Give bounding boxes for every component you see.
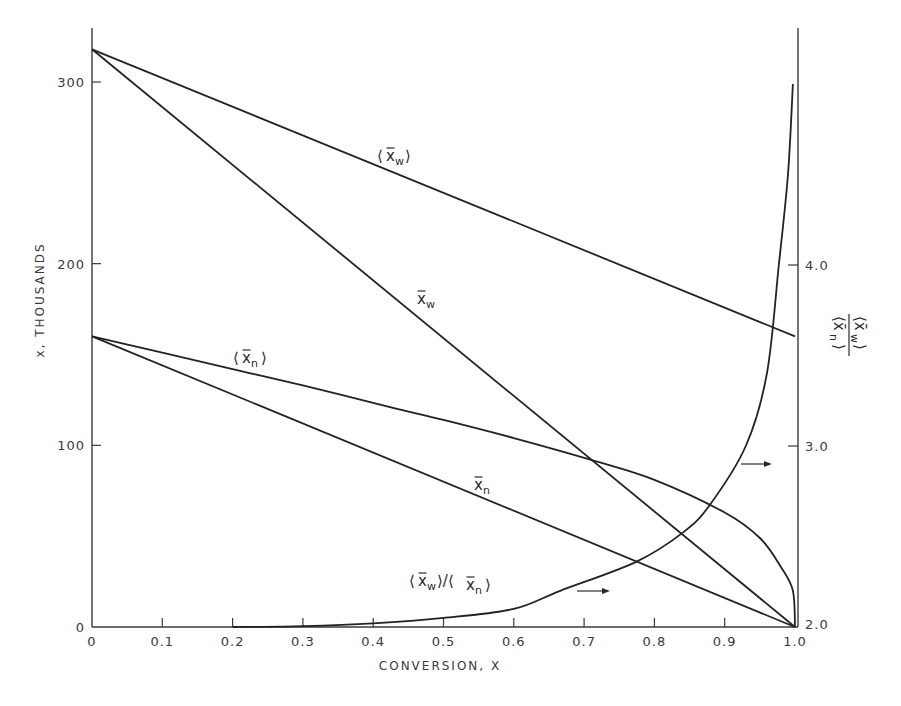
svg-text:x: x [418, 572, 427, 590]
x-tick-label: 0.9 [713, 634, 737, 649]
arrow-right-icon [577, 588, 610, 594]
y2-tick-label: 3.0 [805, 439, 829, 454]
svg-text:n: n [827, 334, 840, 341]
curves [92, 49, 795, 627]
svg-text:⟨: ⟨ [233, 349, 239, 367]
svg-text:x: x [386, 147, 395, 165]
x-tick-label: 0.5 [432, 634, 456, 649]
x-tick-label: 0.7 [572, 634, 596, 649]
svg-text:x: x [474, 476, 483, 494]
x-tick-label: 0.2 [221, 634, 245, 649]
y2-tick-label: 2.0 [805, 617, 829, 632]
x-tick-label: 0.4 [361, 634, 385, 649]
label-xn: xn [474, 476, 490, 497]
svg-text:⟩/⟨: ⟩/⟨ [437, 572, 454, 590]
curve-xw-average [92, 49, 795, 336]
x-tick-label: 0.3 [291, 634, 315, 649]
label-ratio: ⟨xw⟩/⟨xn⟩ [409, 572, 491, 597]
svg-text:n: n [483, 484, 490, 497]
svg-text:n: n [251, 357, 258, 370]
arrow-right-icon [741, 461, 772, 467]
svg-text:w: w [395, 155, 404, 168]
label-xn-average: ⟨xn⟩ [233, 349, 267, 370]
svg-text:x: x [242, 349, 251, 367]
svg-text:⟨x̄: ⟨x̄ [830, 316, 848, 331]
svg-text:n: n [475, 584, 482, 597]
y-tick-label: 300 [57, 75, 85, 90]
svg-text:w: w [848, 334, 861, 343]
svg-text:⟨: ⟨ [409, 572, 415, 590]
svg-text:⟩: ⟩ [830, 344, 848, 350]
x-tick-label: 0.6 [502, 634, 526, 649]
right-axis-label: ⟨x̄w⟩⟨x̄n⟩ [827, 314, 869, 356]
label-xw-average: ⟨xw⟩ [377, 147, 411, 168]
y-tick-label: 200 [57, 257, 85, 272]
svg-text:x: x [466, 576, 475, 594]
labels: CONVERSION, Xx, THOUSANDS⟨xw⟩xw⟨xn⟩xn⟨xw… [33, 147, 869, 673]
x-tick-label: 0 [87, 634, 96, 649]
y-tick-label: 0 [76, 620, 85, 635]
svg-text:x: x [417, 290, 426, 308]
svg-text:w: w [427, 580, 436, 593]
svg-text:⟨x̄: ⟨x̄ [851, 316, 869, 331]
svg-text:⟩: ⟩ [261, 349, 267, 367]
svg-text:⟨: ⟨ [377, 147, 383, 165]
chart-canvas: 00.10.20.30.40.50.60.70.80.91.0010020030… [0, 0, 901, 706]
curve-ratio [233, 84, 793, 627]
y-tick-label: 100 [57, 438, 85, 453]
x-tick-label: 0.8 [643, 634, 667, 649]
x-tick-label: 0.1 [150, 634, 174, 649]
svg-text:⟩: ⟩ [851, 344, 869, 350]
svg-text:w: w [426, 298, 435, 311]
curve-xw [92, 49, 795, 627]
y-axis-label: x, THOUSANDS [33, 242, 47, 357]
x-tick-label: 1.0 [783, 634, 807, 649]
x-axis-label: CONVERSION, X [379, 659, 501, 673]
svg-text:⟩: ⟩ [485, 576, 491, 594]
y2-tick-label: 4.0 [805, 258, 829, 273]
svg-text:⟩: ⟩ [405, 147, 411, 165]
label-xw: xw [417, 290, 435, 311]
